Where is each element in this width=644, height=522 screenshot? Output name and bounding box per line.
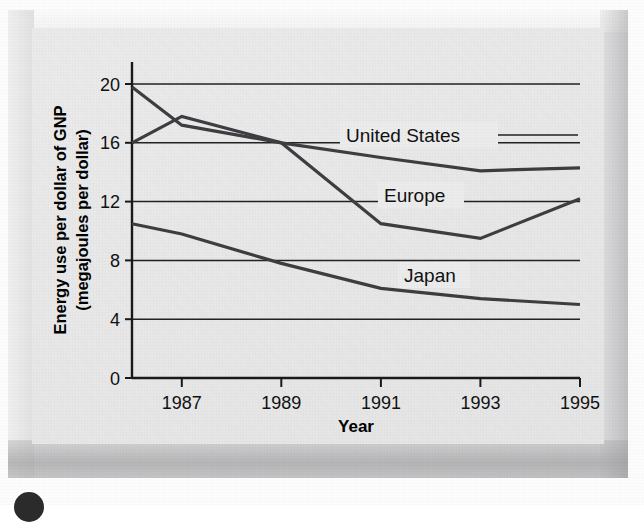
x-tick-label-1989: 1989 <box>261 393 301 413</box>
figure-number-marker <box>14 492 44 522</box>
y-tick-label-12: 12 <box>100 192 120 212</box>
axes <box>132 62 580 378</box>
y-tick-label-0: 0 <box>110 369 120 389</box>
series-label-europe: Europe <box>384 185 445 206</box>
y-axis-title: Energy use per dollar of GNP (megajoules… <box>51 105 91 334</box>
x-axis-title: Year <box>338 417 374 436</box>
x-tick-label-1991: 1991 <box>361 393 401 413</box>
series-annotations: United States Europe Japan <box>340 122 498 288</box>
y-axis-title-line1: Energy use per dollar of GNP <box>51 105 69 334</box>
y-axis-tick-labels: 048121620 <box>100 75 120 389</box>
x-tick-label-1987: 1987 <box>162 393 202 413</box>
series-line-japan <box>132 224 580 305</box>
y-tick-label-16: 16 <box>100 133 120 153</box>
data-series <box>132 87 580 305</box>
y-tick-label-4: 4 <box>110 310 120 330</box>
x-tick-label-1993: 1993 <box>460 393 500 413</box>
x-axis-ticks <box>182 378 580 387</box>
y-axis-title-line2: (megajoules per dollar) <box>73 129 91 311</box>
y-tick-label-8: 8 <box>110 251 120 271</box>
series-label-japan: Japan <box>404 265 456 286</box>
y-tick-label-20: 20 <box>100 75 120 95</box>
series-label-united-states: United States <box>346 125 460 146</box>
x-axis-tick-labels: 19871989199119931995 <box>162 393 600 413</box>
x-tick-label-1995: 1995 <box>560 393 600 413</box>
